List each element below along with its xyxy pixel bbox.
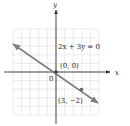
origin-tick-label: 0 xyxy=(49,75,53,83)
origin-point-label: (0, 0) xyxy=(60,62,79,70)
equation-label: 2x + 3y = 0 xyxy=(58,43,100,51)
second-point-label: (3, −2) xyxy=(58,97,83,105)
point-origin xyxy=(54,70,58,74)
x-axis-label: x xyxy=(115,69,119,77)
graph-canvas: y x 2x + 3y = 0 (0, 0) (3, −2) 0 xyxy=(0,0,130,126)
point-3-neg2 xyxy=(80,88,84,92)
y-axis-label: y xyxy=(52,1,58,9)
